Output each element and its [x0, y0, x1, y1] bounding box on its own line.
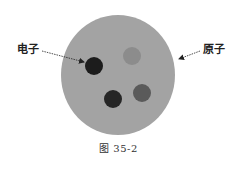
atom-sphere — [61, 15, 175, 135]
electron-label: 电子 — [17, 44, 39, 56]
atom-label: 原子 — [203, 44, 225, 56]
electron-dark-upper-left — [85, 57, 103, 75]
electron-light-upper-right — [123, 47, 141, 65]
atom-pointer-arrow — [179, 51, 200, 59]
electron-medium-lower-right — [133, 84, 151, 102]
electron-dark-lower — [104, 90, 122, 108]
figure-caption: 图 35-2 — [0, 140, 237, 155]
